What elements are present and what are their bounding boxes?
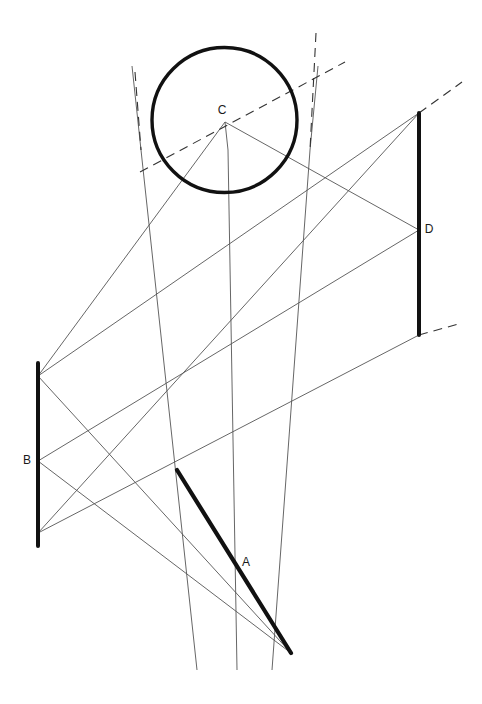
projector-right bbox=[272, 150, 310, 670]
ray-Bmid-to-Dmid bbox=[38, 230, 419, 461]
dashed-projector-right-top bbox=[310, 33, 316, 150]
thin-construction-lines bbox=[38, 66, 419, 670]
object-circle-group bbox=[152, 48, 297, 193]
object-circle-C bbox=[152, 48, 297, 193]
ray-Btop-to-Dtop bbox=[38, 113, 419, 376]
projector-middle bbox=[228, 150, 237, 670]
point-label-c: C bbox=[218, 103, 227, 117]
diagram-canvas: ABCD bbox=[0, 0, 482, 704]
ray-Btop-to-Abot bbox=[38, 376, 291, 653]
point-label-b: B bbox=[23, 453, 31, 467]
dashed-extension-D-bottom bbox=[419, 323, 462, 335]
ray-C-to-Dmid bbox=[225, 122, 419, 230]
ray-Bmid-to-Abot bbox=[38, 461, 291, 653]
dashed-construction-lines bbox=[135, 33, 462, 335]
point-label-d: D bbox=[425, 222, 434, 236]
dashed-extension-D-top bbox=[419, 82, 462, 113]
dashed-projector-left-top bbox=[135, 72, 141, 150]
geometry-diagram: ABCD bbox=[0, 0, 482, 704]
dashed-sightline-through-C bbox=[140, 62, 345, 172]
ray-Bbot-to-Dbot bbox=[38, 335, 419, 533]
point-label-a: A bbox=[242, 555, 250, 569]
ray-C-to-Btop bbox=[38, 122, 225, 376]
